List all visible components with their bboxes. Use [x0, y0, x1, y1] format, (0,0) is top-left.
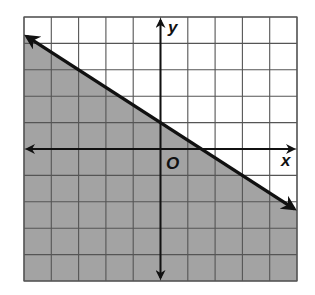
origin-label: O [166, 154, 179, 173]
x-axis-label: x [280, 151, 292, 170]
y-axis-label: y [167, 18, 179, 37]
coordinate-plane: y x O [0, 0, 315, 295]
